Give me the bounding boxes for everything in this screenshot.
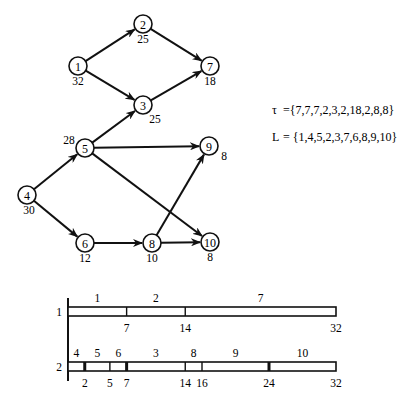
node-weight: 18 (204, 75, 216, 87)
edge-5-to-10 (92, 153, 202, 236)
node-1: 132 (69, 57, 87, 87)
node-label: 2 (140, 18, 146, 32)
node-label: 3 (140, 99, 146, 113)
time-label: 2 (82, 377, 88, 389)
node-label: 9 (206, 140, 212, 154)
gantt-chart: 11277143224563891025714162432 (56, 292, 342, 389)
task-label: 6 (115, 347, 121, 359)
node-label: 5 (82, 142, 88, 156)
task-label: 2 (153, 292, 159, 304)
edge-2-to-7 (151, 29, 202, 61)
time-label: 7 (124, 377, 130, 389)
node-3: 325 (134, 96, 161, 125)
tau-symbol: τ (272, 103, 277, 117)
node-weight: 10 (146, 252, 158, 264)
node-weight: 8 (207, 251, 213, 263)
gantt-row-1: 112771432 (56, 292, 342, 334)
node-weight: 28 (63, 134, 75, 146)
schedule-diagram: 13222532543052861271881098108 τ ={7,7,7,… (0, 0, 414, 403)
graph-edges (34, 29, 204, 243)
gantt-row-2: 24563891025714162432 (56, 347, 342, 389)
task-label: 1 (94, 292, 100, 304)
node-4: 430 (18, 186, 36, 216)
node-label: 10 (204, 236, 216, 250)
formula-tau: τ ={7,7,7,2,3,2,18,2,8,8} (272, 103, 394, 117)
time-label: 7 (124, 322, 130, 334)
node-2: 225 (134, 15, 152, 45)
edge-4-to-5 (34, 154, 77, 189)
task-label: 4 (74, 347, 80, 359)
node-9: 98 (200, 137, 227, 162)
time-label: 14 (180, 377, 192, 389)
node-8: 810 (143, 234, 161, 264)
gantt-bar (68, 307, 336, 316)
time-label: 24 (263, 377, 275, 389)
processor-label: 2 (56, 361, 62, 373)
edge-4-to-6 (34, 201, 77, 237)
edge-1-to-2 (86, 29, 135, 61)
node-label: 7 (207, 60, 213, 74)
edge-5-to-9 (94, 146, 199, 148)
task-label: 10 (297, 347, 309, 359)
task-label: 9 (233, 347, 239, 359)
node-weight: 12 (79, 252, 91, 264)
time-label: 32 (330, 377, 342, 389)
time-label: 16 (196, 377, 208, 389)
task-label: 3 (153, 347, 159, 359)
node-label: 4 (24, 189, 30, 203)
time-label: 14 (180, 322, 192, 334)
edge-5-to-3 (92, 111, 135, 143)
tau-values: ={7,7,7,2,3,2,18,2,8,8} (283, 103, 394, 117)
node-weight: 32 (72, 75, 84, 87)
node-5: 528 (63, 134, 94, 157)
node-label: 8 (149, 237, 155, 251)
L-symbol: L (272, 130, 279, 144)
edge-3-to-7 (151, 71, 202, 100)
node-weight: 25 (149, 113, 161, 125)
processor-label: 1 (56, 306, 62, 318)
time-label: 32 (330, 322, 342, 334)
node-weight: 8 (221, 150, 227, 162)
node-7: 718 (201, 57, 219, 87)
edge-8-to-10 (161, 242, 200, 243)
edge-1-to-3 (86, 71, 135, 100)
edge-8-to-9 (157, 155, 204, 236)
node-weight: 25 (137, 33, 149, 45)
node-weight: 30 (23, 204, 35, 216)
task-label: 8 (191, 347, 197, 359)
graph-nodes: 13222532543052861271881098108 (18, 15, 227, 264)
node-10: 108 (201, 233, 219, 263)
task-label: 7 (258, 292, 264, 304)
task-label: 5 (94, 347, 100, 359)
formula-L: L = {1,4,5,2,3,7,6,8,9,10} (272, 130, 397, 144)
L-values: = {1,4,5,2,3,7,6,8,9,10} (283, 130, 397, 144)
node-label: 1 (75, 60, 81, 74)
node-6: 612 (76, 234, 94, 264)
time-label: 5 (107, 377, 113, 389)
node-label: 6 (82, 237, 88, 251)
